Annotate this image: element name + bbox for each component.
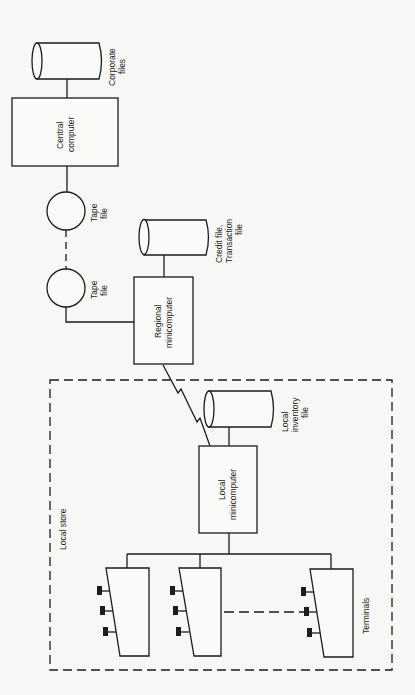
central-computer-box — [12, 98, 118, 166]
local-inventory-file-cylinder — [204, 391, 274, 427]
tape-file-1-label: Tape file — [89, 201, 109, 222]
terminal-bus — [127, 533, 331, 569]
terminal-1 — [97, 568, 149, 656]
central-computer-label: Central computer — [55, 116, 76, 152]
credit-transaction-file-cylinder — [139, 220, 209, 256]
edge-tape2-regional — [66, 307, 134, 322]
terminals-label: Terminals — [361, 598, 371, 634]
tape-file-2-circle — [47, 269, 85, 307]
tape-file-2-label: Tape file — [89, 278, 109, 299]
corporate-files-cylinder — [32, 43, 102, 79]
terminal-3 — [301, 569, 353, 657]
diagram-canvas: Corporate files Central computer Tape fi… — [0, 0, 415, 695]
credit-transaction-file-label: Credit file, Transaction file — [214, 217, 244, 263]
local-inventory-file-label: Local inventory file — [280, 395, 310, 432]
tape-file-1-circle — [47, 192, 85, 230]
local-store-label: Local store — [58, 508, 68, 550]
terminal-2 — [170, 568, 221, 656]
corporate-files-label: Corporate files — [107, 46, 127, 86]
edge-regional-local-telecom-zigzag — [163, 365, 210, 446]
